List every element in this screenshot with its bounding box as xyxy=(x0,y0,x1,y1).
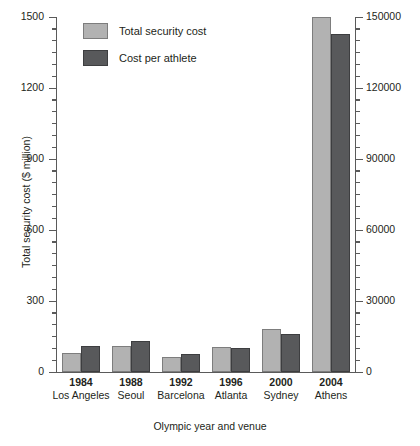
bar-cost-per-athlete-1988 xyxy=(131,341,150,372)
y-tick-label-right-90000: 90000 xyxy=(366,153,395,164)
y-tick-label-right-150000: 150000 xyxy=(366,11,401,22)
y-minor-tick-right xyxy=(356,64,360,65)
bar-total-security-cost-1988 xyxy=(112,346,131,372)
y-minor-tick-right xyxy=(356,277,360,278)
y-minor-tick-right xyxy=(356,336,360,337)
y-tick-right-0 xyxy=(356,372,363,373)
y-tick-label-left-1500: 1500 xyxy=(2,11,44,22)
y-tick-right-150000 xyxy=(356,17,363,18)
y-minor-tick-right xyxy=(356,312,360,313)
y-minor-tick-right xyxy=(356,52,360,53)
y-minor-tick-right xyxy=(356,289,360,290)
y-tick-label-right-120000: 120000 xyxy=(366,82,401,93)
y-minor-tick-right xyxy=(356,194,360,195)
y-minor-tick-right xyxy=(356,348,360,349)
bar-cost-per-athlete-1992 xyxy=(181,354,200,372)
bar-total-security-cost-2004 xyxy=(312,17,331,372)
y-tick-label-right-30000: 30000 xyxy=(366,295,395,306)
legend-swatch-dark xyxy=(83,50,108,66)
chart-legend: Total security costCost per athlete xyxy=(83,21,206,75)
y-tick-left-600 xyxy=(49,230,56,231)
y-minor-tick-right xyxy=(356,265,360,266)
legend-label: Cost per athlete xyxy=(119,52,197,64)
bar-cost-per-athlete-1996 xyxy=(231,348,250,372)
bar-total-security-cost-2000 xyxy=(262,329,281,372)
y-minor-tick-right xyxy=(356,206,360,207)
x-axis-line xyxy=(56,372,356,373)
y-tick-left-900 xyxy=(49,159,56,160)
y-tick-left-300 xyxy=(49,301,56,302)
x-axis-title: Olympic year and venue xyxy=(0,420,420,432)
y-tick-label-left-1200: 1200 xyxy=(2,82,44,93)
y-minor-tick-right xyxy=(356,111,360,112)
y-tick-left-1500 xyxy=(49,17,56,18)
bar-total-security-cost-1996 xyxy=(212,347,231,372)
legend-label: Total security cost xyxy=(119,25,206,37)
x-group-year: 2004 xyxy=(300,376,362,389)
y-minor-tick-right xyxy=(356,76,360,77)
y-minor-tick-right xyxy=(356,123,360,124)
y-tick-label-left-0: 0 xyxy=(2,366,44,377)
y-minor-tick-right xyxy=(356,135,360,136)
y-axis-left-title: Total security cost ($ million) xyxy=(20,102,32,302)
y-minor-tick-right xyxy=(356,182,360,183)
y-minor-tick-right xyxy=(356,253,360,254)
y-minor-tick-right xyxy=(356,147,360,148)
x-group-label-2004: 2004Athens xyxy=(300,376,362,401)
y-minor-tick-right xyxy=(356,360,360,361)
legend-item-1: Cost per athlete xyxy=(83,48,206,67)
bar-cost-per-athlete-2004 xyxy=(331,34,350,372)
olympic-security-cost-chart: 030060090012001500 030000600009000012000… xyxy=(0,0,420,446)
bar-cost-per-athlete-2000 xyxy=(281,334,300,372)
bar-total-security-cost-1984 xyxy=(62,353,81,372)
y-minor-tick-right xyxy=(356,99,360,100)
y-tick-label-right-60000: 60000 xyxy=(366,224,395,235)
y-minor-tick-right xyxy=(356,28,360,29)
y-minor-tick-right xyxy=(356,218,360,219)
y-tick-right-120000 xyxy=(356,88,363,89)
legend-swatch-light xyxy=(83,23,108,39)
y-minor-tick-right xyxy=(356,241,360,242)
y-tick-right-60000 xyxy=(356,230,363,231)
bar-cost-per-athlete-1984 xyxy=(81,346,100,372)
y-tick-right-30000 xyxy=(356,301,363,302)
y-minor-tick-right xyxy=(356,170,360,171)
y-tick-left-1200 xyxy=(49,88,56,89)
y-minor-tick-right xyxy=(356,40,360,41)
y-tick-label-right-0: 0 xyxy=(366,366,372,377)
y-minor-tick-right xyxy=(356,324,360,325)
bar-total-security-cost-1992 xyxy=(162,357,181,372)
x-group-venue: Athens xyxy=(300,389,362,402)
y-tick-right-90000 xyxy=(356,159,363,160)
legend-item-0: Total security cost xyxy=(83,21,206,40)
y-tick-left-0 xyxy=(49,372,56,373)
